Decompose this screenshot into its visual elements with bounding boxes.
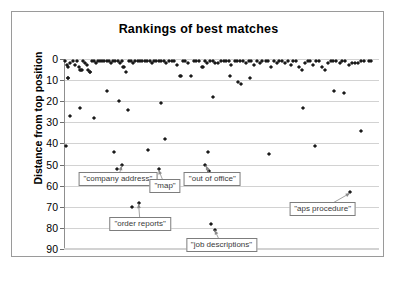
tick-mark xyxy=(60,80,64,81)
y-axis-title: Distance from top position xyxy=(32,28,44,208)
gridline xyxy=(64,101,379,102)
y-tick-label: 80 xyxy=(46,222,58,234)
chart-frame: Rankings of best matches Distance from t… xyxy=(11,11,384,257)
annotation-label: "out of office" xyxy=(184,172,241,186)
tick-mark xyxy=(60,165,64,166)
tick-mark xyxy=(60,143,64,144)
gridline xyxy=(64,143,379,144)
y-tick-label: 30 xyxy=(46,116,58,128)
tick-mark xyxy=(60,122,64,123)
gridline xyxy=(64,122,379,123)
y-tick-label: 0 xyxy=(52,53,58,65)
annotation-label: "map" xyxy=(149,179,180,193)
tick-mark xyxy=(60,186,64,187)
y-tick-label: 60 xyxy=(46,180,58,192)
annotation-label: "company address" xyxy=(78,172,157,186)
tick-mark xyxy=(60,101,64,102)
annotation-label: "order reports" xyxy=(109,217,170,231)
y-tick-label: 90 xyxy=(46,243,58,255)
plot-area: 0102030405060708090 "company address""or… xyxy=(64,59,379,249)
gridline xyxy=(64,165,379,166)
y-tick-label: 40 xyxy=(46,137,58,149)
tick-mark xyxy=(60,228,64,229)
gridline xyxy=(64,80,379,81)
y-tick-label: 50 xyxy=(46,159,58,171)
y-tick-label: 70 xyxy=(46,201,58,213)
y-axis-line xyxy=(64,59,65,249)
annotation-label: "aps procedure" xyxy=(289,202,356,216)
data-point xyxy=(136,200,140,204)
y-tick-label: 20 xyxy=(46,95,58,107)
annotation-label: "job descriptions" xyxy=(186,238,257,252)
y-tick-label: 10 xyxy=(46,74,58,86)
tick-mark xyxy=(60,207,64,208)
chart-title: Rankings of best matches xyxy=(12,22,385,36)
tick-mark xyxy=(60,249,64,250)
